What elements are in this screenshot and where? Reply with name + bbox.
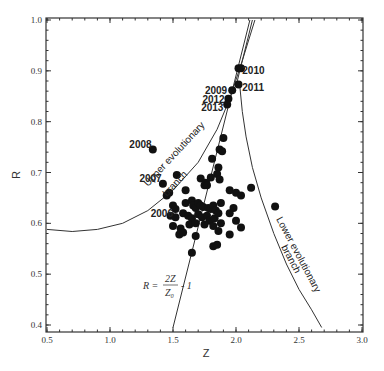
formula-rhs: - 1 (181, 280, 192, 291)
formula-numerator: 2Z (165, 273, 176, 284)
curve-line (240, 86, 322, 327)
data-point (182, 186, 190, 194)
data-point (188, 249, 196, 257)
data-point (192, 219, 200, 227)
data-point (203, 181, 211, 189)
data-point (271, 203, 279, 211)
data-point (217, 219, 225, 227)
data-point (228, 86, 236, 94)
y-tick-label: 0.5 (31, 269, 43, 279)
y-tick-label: 0.9 (31, 66, 43, 76)
data-point (217, 199, 225, 207)
x-tick-label: 1.0 (104, 335, 116, 345)
data-point (235, 81, 243, 89)
y-axis-title: R (10, 171, 22, 179)
curve-line (236, 20, 252, 86)
year-label: 2010 (242, 65, 265, 76)
scatter-chart: 0.51.01.52.02.53.00.40.50.60.70.80.91.0Z… (0, 0, 384, 371)
data-point (214, 209, 222, 217)
x-tick-label: 3.0 (356, 335, 368, 345)
data-point (216, 176, 224, 184)
data-point (192, 232, 200, 240)
data-point (247, 184, 255, 192)
data-point (214, 227, 222, 235)
y-tick-label: 0.4 (31, 320, 43, 330)
y-tick-label: 0.6 (31, 218, 43, 228)
data-point (237, 223, 245, 231)
data-point (169, 222, 177, 230)
data-point (213, 241, 221, 249)
year-label: 2008 (129, 139, 152, 150)
data-point (218, 147, 226, 155)
formula-denominator: Z₀ (165, 287, 175, 298)
formula-lhs: R = (142, 280, 158, 291)
data-point (179, 229, 187, 237)
y-tick-label: 1.0 (31, 15, 43, 25)
chart-container: 0.51.01.52.02.53.00.40.50.60.70.80.91.0Z… (0, 0, 384, 371)
x-tick-label: 2.0 (230, 335, 242, 345)
year-label: 2011 (242, 82, 264, 93)
year-label: 2006 (151, 208, 174, 219)
x-tick-label: 2.5 (293, 335, 305, 345)
data-point (230, 204, 238, 212)
data-point (232, 217, 240, 225)
y-tick-label: 0.8 (31, 117, 43, 127)
lower-branch-label: Lower evolutionary (274, 215, 323, 294)
data-point (219, 134, 227, 142)
data-point (237, 191, 245, 199)
data-point (226, 231, 234, 239)
axes: 0.51.01.52.02.53.00.40.50.60.70.80.91.0Z… (10, 15, 368, 359)
y-tick-label: 0.7 (31, 168, 43, 178)
year-label: 2013 (201, 102, 224, 113)
data-point (208, 155, 216, 163)
data-point (201, 220, 209, 228)
data-point (214, 163, 222, 171)
x-tick-label: 1.5 (167, 335, 179, 345)
x-axis-title: Z (203, 347, 210, 359)
x-tick-label: 0.5 (41, 335, 53, 345)
